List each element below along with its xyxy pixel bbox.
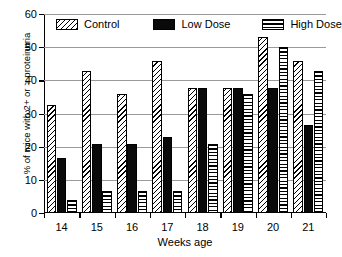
x-tick bbox=[256, 213, 257, 218]
bar-control-17 bbox=[152, 61, 162, 213]
bar-group bbox=[258, 14, 288, 213]
bar-control-18 bbox=[188, 88, 198, 213]
legend-label: High Dose bbox=[290, 18, 341, 30]
legend-label: Control bbox=[84, 18, 119, 30]
y-tick-label: 10 bbox=[25, 174, 37, 186]
plot-area: 0102030405060 1415161718192021 bbox=[44, 14, 326, 213]
x-tick-label: 16 bbox=[126, 221, 138, 233]
x-tick bbox=[150, 213, 151, 218]
x-tick bbox=[44, 213, 45, 218]
bar-high-dose-21 bbox=[314, 71, 324, 213]
bar-low-dose-19 bbox=[233, 88, 243, 213]
x-tick-label: 21 bbox=[302, 221, 314, 233]
bar-group bbox=[82, 14, 112, 213]
x-axis-title: Weeks age bbox=[44, 236, 326, 248]
bar-low-dose-14 bbox=[57, 158, 67, 213]
bar-low-dose-16 bbox=[127, 144, 137, 213]
x-tick-label: 20 bbox=[267, 221, 279, 233]
y-tick-label: 0 bbox=[31, 207, 37, 219]
y-tick-label: 20 bbox=[25, 141, 37, 153]
bar-low-dose-18 bbox=[198, 88, 208, 213]
bar-group bbox=[152, 14, 182, 213]
legend-item-low-dose[interactable]: Low Dose bbox=[153, 18, 230, 30]
chart-legend: ControlLow DoseHigh Dose bbox=[56, 16, 324, 32]
legend-swatch-icon bbox=[56, 19, 78, 30]
bar-high-dose-16 bbox=[138, 191, 148, 213]
bar-control-15 bbox=[82, 71, 92, 213]
bar-group bbox=[293, 14, 323, 213]
bar-high-dose-14 bbox=[67, 200, 77, 213]
legend-label: Low Dose bbox=[181, 18, 230, 30]
bar-group bbox=[188, 14, 218, 213]
bar-low-dose-15 bbox=[92, 144, 102, 213]
y-tick-label: 30 bbox=[25, 108, 37, 120]
bar-control-20 bbox=[258, 37, 268, 213]
x-tick-label: 19 bbox=[232, 221, 244, 233]
bar-low-dose-21 bbox=[304, 125, 314, 213]
bar-high-dose-19 bbox=[243, 94, 253, 213]
bar-low-dose-17 bbox=[163, 137, 173, 213]
x-tick bbox=[185, 213, 186, 218]
y-tick-label: 40 bbox=[25, 74, 37, 86]
legend-swatch-icon bbox=[262, 19, 284, 30]
bar-high-dose-18 bbox=[208, 144, 218, 213]
y-tick-label: 50 bbox=[25, 41, 37, 53]
x-tick bbox=[220, 213, 221, 218]
x-tick bbox=[326, 213, 327, 218]
bar-high-dose-20 bbox=[279, 47, 289, 213]
bar-high-dose-15 bbox=[102, 191, 112, 213]
x-tick bbox=[291, 213, 292, 218]
legend-swatch-icon bbox=[153, 19, 175, 30]
bar-group bbox=[47, 14, 77, 213]
legend-item-high-dose[interactable]: High Dose bbox=[262, 18, 341, 30]
bar-group bbox=[117, 14, 147, 213]
y-tick-label: 60 bbox=[25, 8, 37, 20]
bar-group bbox=[223, 14, 253, 213]
bar-control-14 bbox=[47, 105, 57, 213]
bar-control-19 bbox=[223, 88, 233, 213]
bar-series-container bbox=[44, 14, 326, 213]
bar-high-dose-17 bbox=[173, 191, 183, 213]
x-tick-label: 15 bbox=[91, 221, 103, 233]
x-tick bbox=[115, 213, 116, 218]
x-tick-label: 18 bbox=[197, 221, 209, 233]
x-tick bbox=[79, 213, 80, 218]
bar-low-dose-20 bbox=[268, 88, 278, 213]
legend-item-control[interactable]: Control bbox=[56, 18, 119, 30]
x-tick-label: 17 bbox=[161, 221, 173, 233]
bar-control-16 bbox=[117, 94, 127, 213]
bar-control-21 bbox=[293, 61, 303, 213]
x-tick-label: 14 bbox=[56, 221, 68, 233]
